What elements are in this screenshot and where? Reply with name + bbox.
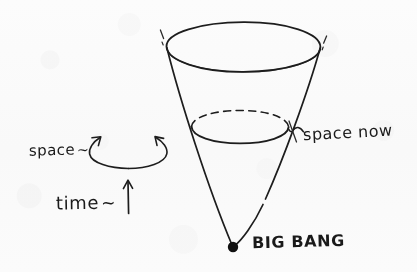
sketch-canvas: space~ time~ space now BIG BANG (0, 0, 417, 272)
rim-tick-right-lower-icon (322, 47, 323, 50)
label-space: space~ (29, 140, 90, 159)
space-rotation-arc-right (129, 137, 167, 168)
rim-tick-left-lower-icon (162, 42, 163, 45)
time-arrow-shaft (128, 182, 129, 214)
cone-inner-ellipse-back-dashed (192, 110, 289, 127)
label-time-word: time (56, 192, 99, 214)
rim-tick-right-icon (324, 36, 327, 43)
label-space-squiggle: ~ (75, 141, 90, 157)
cone-top-ellipse-overstroke (169, 52, 320, 72)
space-rotation-arc-left (89, 138, 128, 169)
label-space-word: space (29, 141, 75, 160)
big-bang-point (228, 242, 238, 252)
rim-tick-left-icon (160, 30, 163, 39)
label-time: time~ (56, 191, 116, 213)
label-time-squiggle: ~ (99, 192, 116, 212)
cone-left-edge (167, 48, 232, 246)
label-big-bang: BIG BANG (252, 231, 345, 252)
cone-inner-ellipse-front (192, 127, 289, 144)
